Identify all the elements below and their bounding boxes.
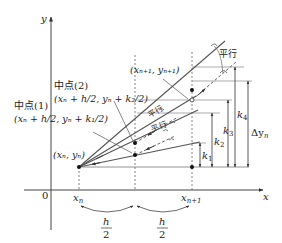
origin-label: 0 [42,190,48,201]
half-step-arc-left [81,206,133,212]
parallel-label-k2: 平行 [149,119,167,134]
point-xn-yn [77,165,81,169]
parallel-mark-k4-upper [211,44,217,46]
runge-kutta-diagram: y x 0 k1 k2 k3 [0,0,282,243]
y-axis-label: y [40,13,47,24]
midpoint2-title: 中点(2) [54,79,88,91]
half-step-left-denominator: 2 [103,229,109,240]
half-step-left-numerator: h [103,216,109,227]
k1-label: k1 [202,150,213,163]
half-step-arc-right [137,206,189,212]
k2-mid-arrow [146,146,154,150]
delta-y-label: Δyn [251,127,269,140]
parallel-label-top: 平行 [219,48,237,59]
start-point-label: (xₙ, yₙ) [53,149,85,160]
xn-tick-label: xn [73,192,84,205]
half-step-right-denominator: 2 [159,229,165,240]
point-midpoint2 [133,141,137,145]
midpoint1-title: 中点(1) [14,99,48,111]
k4-label: k4 [237,109,248,122]
point-xn1-base [190,165,194,169]
midpoint1-coords: (xₙ + h/2, yₙ + k₁/2) [14,113,108,124]
parallel-mark-k2-lower [169,139,174,141]
point-open-k3 [190,98,194,102]
xn1-tick-label: xn+1 [181,192,201,205]
x-axis-label: x [263,191,269,202]
k2-label: k2 [214,136,225,149]
k3-label: k3 [223,125,234,138]
midpoint2-coords: (xₙ + h/2, yₙ + k₂/2) [54,93,148,104]
endpoint-leader [163,79,188,99]
slope-k4-line [79,41,225,167]
point-k3-end [190,88,194,92]
end-point-label: (xₙ₊₁, yₙ₊₁) [130,64,180,75]
point-midpoint1 [133,153,137,157]
slope-k3-line [79,96,196,167]
k4-mid-arrow [198,89,205,95]
half-step-right-numerator: h [159,216,165,227]
